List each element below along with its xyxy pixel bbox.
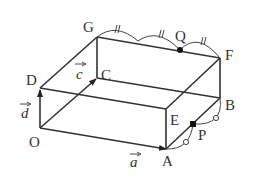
edge-FE — [166, 58, 220, 109]
label-P: P — [198, 127, 206, 143]
point-Q — [177, 47, 183, 53]
label-Q: Q — [175, 28, 186, 44]
label-G: G — [83, 19, 94, 35]
label-D: D — [26, 72, 37, 88]
prism-figure: G Q F D C E B P O A c d a — [0, 0, 259, 181]
vector-label-c: c — [75, 62, 86, 82]
circle-mark-1 — [183, 139, 188, 144]
edge-GF — [97, 37, 220, 58]
edge-CB — [97, 78, 220, 98]
svg-text:a: a — [130, 154, 138, 170]
edge-DG — [40, 37, 97, 88]
label-B: B — [225, 97, 235, 113]
vector-label-d: d — [20, 102, 31, 121]
arc-QF — [180, 42, 220, 58]
diagram-canvas: G Q F D C E B P O A c d a — [0, 0, 259, 181]
circle-mark-2 — [213, 115, 218, 120]
arc-GQ — [97, 30, 138, 41]
label-C: C — [101, 67, 111, 83]
svg-text:c: c — [76, 66, 83, 82]
label-F: F — [225, 47, 233, 63]
label-O: O — [29, 134, 40, 150]
point-P — [190, 121, 196, 127]
vector-label-a: a — [130, 152, 141, 170]
label-A: A — [162, 153, 173, 169]
double-tick-mark-1 — [115, 25, 120, 33]
edge-OA — [40, 128, 166, 149]
edge-OC — [40, 79, 96, 128]
edge-ED — [40, 88, 166, 109]
label-E: E — [170, 112, 179, 128]
svg-text:d: d — [21, 105, 29, 121]
